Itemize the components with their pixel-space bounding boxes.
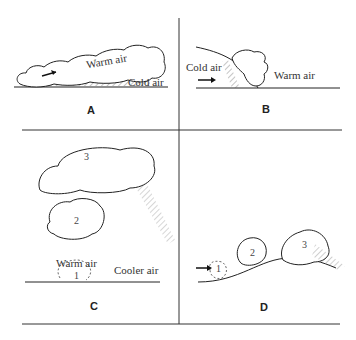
panel-b-warm-air-label: Warm air [274,70,315,81]
panel-c-stage-2: 2 [74,216,79,226]
panel-c-stage-1: 1 [74,271,79,281]
panel-c-drawing [25,148,175,282]
panel-c-warm-air-label: Warm air [56,258,97,269]
panel-d-stage-3: 3 [302,240,307,250]
panel-c-cooler-air-label: Cooler air [114,265,158,276]
panel-d-stage-1: 1 [216,264,221,274]
panel-a-cold-air-label: Cold air [128,77,164,88]
panel-d-letter: D [260,302,268,313]
panel-c-stage-3: 3 [84,152,89,162]
panel-d-stage-2: 2 [250,248,255,258]
panel-b-cold-air-label: Cold air [186,62,222,73]
panel-d-drawing [196,230,345,282]
panel-c-letter: C [90,301,98,312]
panel-a-letter: A [87,105,95,116]
diagram-canvas [0,0,356,340]
panel-b-letter: B [262,104,270,115]
